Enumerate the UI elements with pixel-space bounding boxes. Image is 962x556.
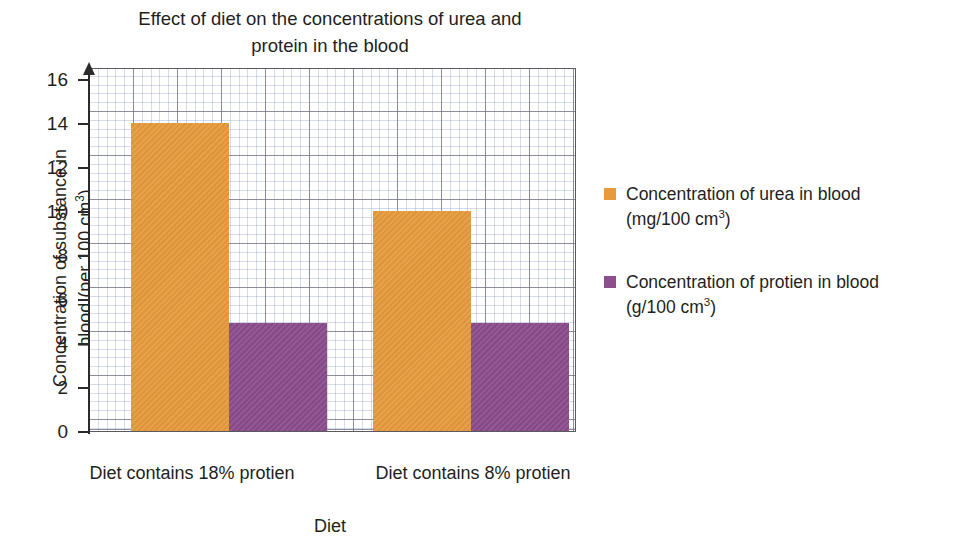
legend-item-urea-line-2: (mg/100 cm3) bbox=[626, 207, 960, 232]
y-tick-mark-16 bbox=[78, 79, 88, 81]
x-category-label-0: Diet contains 18% protien bbox=[52, 462, 332, 484]
legend-item-protein: Concentration of protien in blood (g/100… bbox=[604, 270, 960, 320]
y-axis-line bbox=[88, 72, 90, 434]
y-tick-label-6: 6 bbox=[26, 290, 68, 309]
legend-swatch-protein-icon bbox=[604, 276, 616, 288]
bar-protein-diet-8 bbox=[471, 323, 569, 431]
y-tick-label-16: 16 bbox=[26, 70, 68, 89]
bar-urea-diet-8 bbox=[373, 211, 471, 431]
bar-urea-diet-18 bbox=[131, 123, 229, 431]
x-category-label-1: Diet contains 8% protien bbox=[338, 462, 608, 484]
y-tick-label-10: 10 bbox=[26, 202, 68, 221]
y-tick-mark-2 bbox=[78, 387, 88, 389]
y-tick-label-8: 8 bbox=[26, 246, 68, 265]
y-tick-mark-8 bbox=[78, 255, 88, 257]
chart-title-line-2: protein in the blood bbox=[60, 32, 600, 59]
legend-item-urea: Concentration of urea in blood (mg/100 c… bbox=[604, 182, 960, 232]
y-tick-label-0: 0 bbox=[26, 422, 68, 441]
x-axis-label: Diet bbox=[190, 516, 470, 537]
y-tick-label-12: 12 bbox=[26, 158, 68, 177]
y-tick-label-2: 2 bbox=[26, 378, 68, 397]
y-tick-mark-14 bbox=[78, 123, 88, 125]
legend-item-protein-units-pre: (g/100 cm bbox=[626, 297, 704, 317]
chart-legend: Concentration of urea in blood (mg/100 c… bbox=[604, 182, 960, 358]
legend-item-urea-units-pre: (mg/100 cm bbox=[626, 209, 718, 229]
y-tick-mark-12 bbox=[78, 167, 88, 169]
legend-item-protein-line-1: Concentration of protien in blood bbox=[626, 270, 960, 295]
y-tick-mark-4 bbox=[78, 343, 88, 345]
bar-protein-diet-18 bbox=[229, 323, 327, 431]
chart-title: Effect of diet on the concentrations of … bbox=[60, 5, 600, 59]
legend-swatch-urea-icon bbox=[604, 188, 616, 200]
chart-title-line-1: Effect of diet on the concentrations of … bbox=[60, 5, 600, 32]
y-tick-mark-0 bbox=[78, 431, 88, 433]
plot-area bbox=[88, 68, 576, 432]
y-tick-label-14: 14 bbox=[26, 114, 68, 133]
legend-item-protein-units-post: ) bbox=[710, 297, 716, 317]
y-tick-mark-6 bbox=[78, 299, 88, 301]
legend-item-protein-line-2: (g/100 cm3) bbox=[626, 295, 960, 320]
y-tick-mark-10 bbox=[78, 211, 88, 213]
legend-item-urea-units-post: ) bbox=[725, 209, 731, 229]
legend-item-urea-line-1: Concentration of urea in blood bbox=[626, 182, 960, 207]
y-tick-label-4: 4 bbox=[26, 334, 68, 353]
